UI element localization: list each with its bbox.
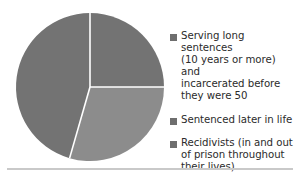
pie-chart-figure: Serving long sentences (10 years or more… bbox=[0, 0, 301, 181]
pie-slice-0 bbox=[90, 13, 164, 87]
legend-item-label: Sentenced later in life bbox=[181, 114, 292, 126]
horizontal-rule bbox=[7, 168, 293, 170]
chart-legend: Serving long sentences (10 years or more… bbox=[170, 30, 296, 181]
legend-item-sentenced-later-in-life: Sentenced later in life bbox=[170, 114, 296, 126]
legend-item-serving-long-sentences: Serving long sentences (10 years or more… bbox=[170, 30, 296, 103]
legend-swatch-icon bbox=[170, 141, 177, 148]
legend-swatch-icon bbox=[170, 118, 177, 125]
legend-swatch-icon bbox=[170, 34, 177, 41]
legend-item-label: Serving long sentences (10 years or more… bbox=[181, 30, 296, 103]
